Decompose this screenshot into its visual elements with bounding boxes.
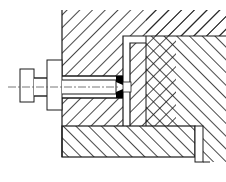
technical-drawing [0,0,226,182]
right-body [146,10,226,36]
bolt-head [20,69,34,102]
bolt-flange [47,60,62,110]
l-insert [123,36,146,126]
end-strip [195,126,226,162]
base-plate [62,126,195,157]
wedge-block [146,36,226,126]
cross-section-svg [0,0,226,182]
lower-left-body [62,98,123,126]
